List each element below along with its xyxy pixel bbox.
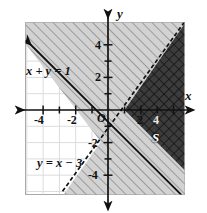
graph-canvas [0, 0, 207, 213]
x-tick-label--2: -2 [67, 113, 76, 128]
origin-label: O [97, 111, 106, 126]
y-tick-label--2: -2 [88, 136, 97, 151]
x-axis-label: x [185, 88, 192, 104]
solution-region-label: S [152, 130, 159, 146]
equation-label-1: x + y = 1 [26, 64, 71, 79]
y-axis-label: y [117, 6, 123, 22]
x-tick-label--4: -4 [34, 113, 43, 128]
x-tick-label-2: 2 [137, 113, 143, 128]
equation-label-2: y = x − 3 [37, 156, 82, 171]
x-tick-label-4: 4 [153, 113, 159, 128]
graph-figure: y x O -4 -2 2 4 4 2 -2 -4 x + y = 1 y = … [0, 0, 207, 213]
y-tick-label-4: 4 [95, 38, 101, 53]
y-tick-label-2: 2 [95, 70, 101, 85]
y-tick-label--4: -4 [88, 168, 97, 183]
